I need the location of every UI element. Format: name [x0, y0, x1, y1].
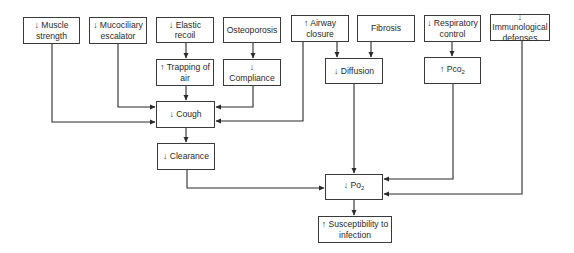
- edge-clearance-to-po2: [187, 170, 324, 188]
- node-label: ↓ Compliance: [226, 62, 278, 83]
- node-label: ↓ Po2: [344, 180, 365, 194]
- node-immunological-defenses: ↓ Immunological defenses: [490, 14, 550, 41]
- node-pco2: ↑ Pco2: [424, 57, 481, 84]
- node-trapping-of-air: ↑ Trapping of air: [156, 59, 214, 86]
- node-osteoporosis: Osteoporosis: [223, 17, 281, 43]
- node-label: ↓ Diffusion: [334, 66, 374, 77]
- node-elastic-recoil: ↓ Elastic recoil: [156, 17, 214, 43]
- node-label: ↑ Trapping of air: [159, 62, 211, 83]
- node-label: ↓ Cough: [169, 109, 201, 120]
- node-cough: ↓ Cough: [156, 101, 215, 128]
- node-label: ↓ Clearance: [163, 151, 209, 162]
- node-muscle-strength: ↓ Muscle strength: [23, 17, 80, 44]
- node-label: ↑ Airway closure: [294, 18, 346, 39]
- node-label: ↑ Susceptibility to infection: [321, 219, 389, 240]
- node-susceptibility-to-infection: ↑ Susceptibility to infection: [318, 216, 392, 243]
- node-label: ↑ Pco2: [440, 64, 465, 78]
- node-airway-closure: ↑ Airway closure: [291, 15, 349, 42]
- edges-layer: [0, 0, 574, 253]
- flowchart: ↓ Muscle strength ↓ Mucociliary escalato…: [0, 0, 574, 253]
- node-label: Osteoporosis: [227, 25, 278, 36]
- node-mucociliary-escalator: ↓ Mucociliary escalator: [89, 17, 147, 44]
- node-diffusion: ↓ Diffusion: [325, 58, 383, 84]
- edge-compliance-to-cough: [216, 86, 253, 107]
- node-label: ↓ Immunological defenses: [492, 12, 547, 44]
- node-compliance: ↓ Compliance: [223, 59, 281, 86]
- node-label: ↓ Muscle strength: [26, 20, 77, 41]
- edge-muscle-to-cough: [52, 44, 155, 122]
- node-label: ↓ Mucociliary escalator: [92, 20, 144, 41]
- node-label: ↓ Respiratory control: [427, 18, 478, 39]
- edge-pco2-to-po2: [384, 84, 453, 179]
- node-respiratory-control: ↓ Respiratory control: [424, 15, 481, 42]
- edge-mucociliary-to-cough: [118, 44, 155, 107]
- node-fibrosis: Fibrosis: [357, 15, 415, 42]
- node-label: Fibrosis: [371, 23, 401, 34]
- node-clearance: ↓ Clearance: [157, 143, 215, 170]
- node-po2: ↓ Po2: [325, 174, 383, 200]
- node-label: ↓ Elastic recoil: [159, 20, 211, 41]
